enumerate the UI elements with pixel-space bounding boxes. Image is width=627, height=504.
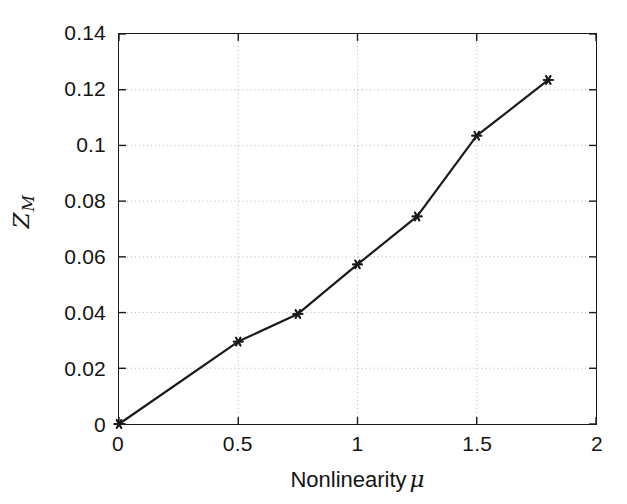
figure-canvas: 00.020.040.060.080.10.120.14 ZM 00.511.5… [0,0,627,504]
y-axis-title: ZM [8,142,38,282]
y-axis-title-base: Z [8,213,34,229]
x-tick-label: 0 [112,432,124,456]
plot-area [118,33,597,425]
x-tick-label: 1 [352,432,364,456]
y-tick-label: 0 [94,413,106,437]
x-axis-title-symbol: μ [407,466,425,492]
y-tick-label: 0.04 [64,301,106,325]
data-layer [119,34,596,424]
y-axis-title-subscript: M [19,195,38,212]
y-tick-label: 0.1 [76,133,106,157]
x-axis-title: Nonlinearityμ [118,466,597,493]
data-line-0 [119,80,548,424]
y-tick-label: 0.08 [64,189,106,213]
y-tick-label: 0.14 [64,21,106,45]
x-tick-label: 2 [591,432,603,456]
x-axis-title-text: Nonlinearity [290,467,406,492]
x-axis-tick-labels: 00.511.52 [118,432,597,462]
y-tick-label: 0.12 [64,77,106,101]
y-tick-label: 0.02 [64,357,106,381]
x-tick-label: 1.5 [462,432,492,456]
y-tick-label: 0.06 [64,245,106,269]
x-tick-label: 0.5 [223,432,253,456]
